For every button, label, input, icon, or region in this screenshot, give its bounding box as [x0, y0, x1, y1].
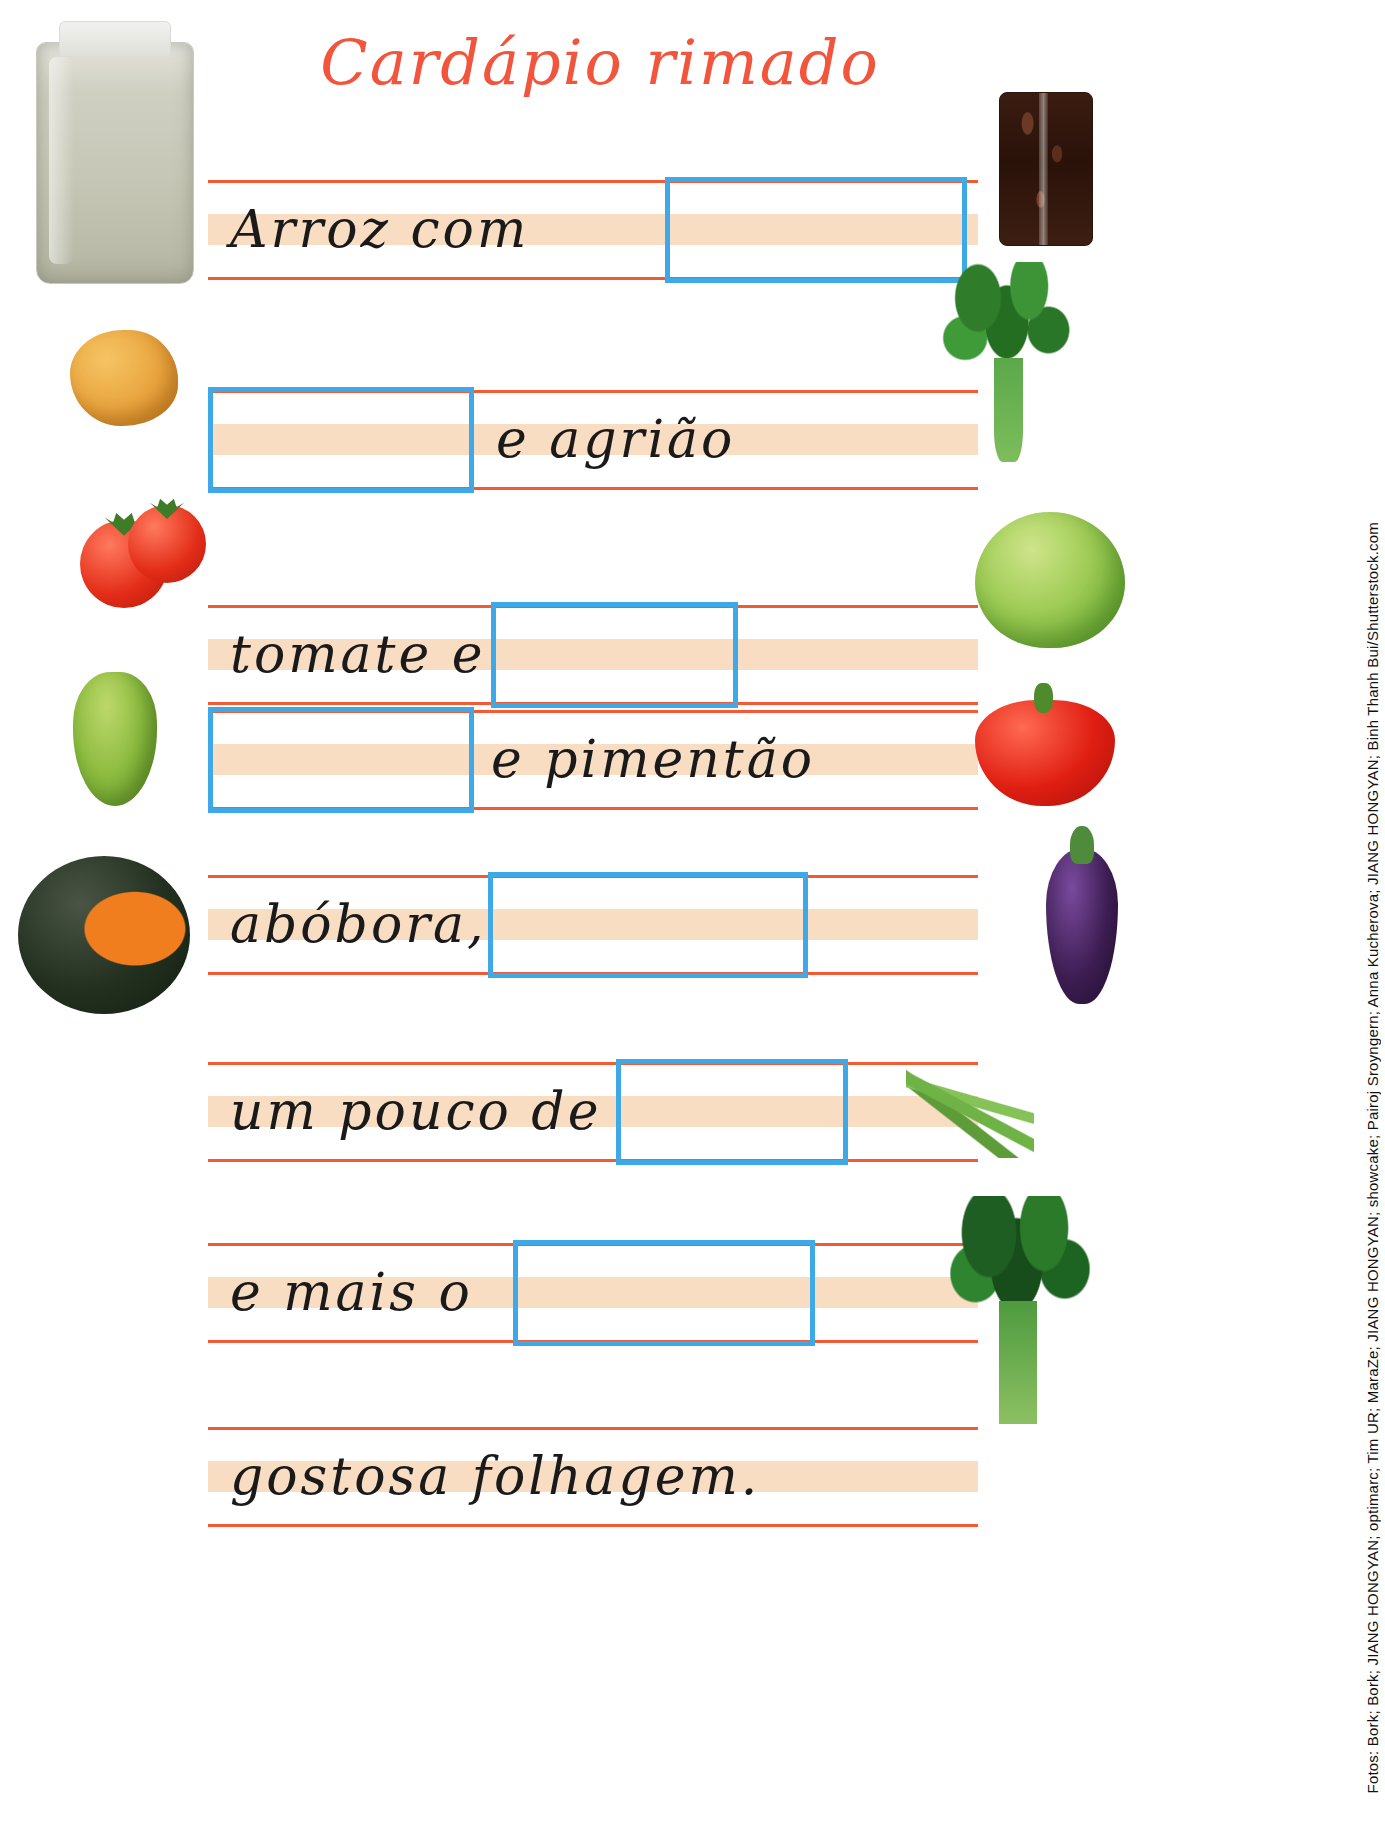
- handwriting-text-3: tomate e: [230, 624, 486, 684]
- eggplant-photo: [1046, 848, 1118, 1004]
- worksheet-line-4: e pimentão: [208, 710, 978, 810]
- handwriting-text-7: e mais o: [230, 1262, 473, 1322]
- answer-box-7[interactable]: [513, 1240, 815, 1346]
- answer-box-3[interactable]: [491, 602, 738, 708]
- photo-credits: Fotos: Bork; Bork; JIANG HONGYAN; optima…: [1364, 522, 1381, 1793]
- spinach-photo: [934, 1196, 1106, 1424]
- bell-pepper-photo: [975, 700, 1115, 806]
- beans-bag-photo: [999, 92, 1093, 246]
- answer-box-2[interactable]: [208, 387, 474, 493]
- handwriting-text-1: Arroz com: [230, 199, 529, 259]
- worksheet-line-1: Arroz com: [208, 180, 978, 280]
- green-beans-photo: [906, 1060, 1034, 1158]
- handwriting-text-4: e pimentão: [491, 729, 815, 789]
- answer-box-1[interactable]: [665, 177, 967, 283]
- lettuce-photo: [975, 512, 1125, 648]
- chayote-photo: [73, 672, 157, 806]
- handwriting-text-5: abóbora,: [230, 894, 487, 954]
- worksheet-line-8: gostosa folhagem.: [208, 1427, 978, 1527]
- pumpkin-photo: [18, 856, 190, 1014]
- worksheet-line-3: tomate e: [208, 605, 978, 705]
- tomato-photo: [128, 505, 206, 583]
- rice-bag-photo: [36, 42, 194, 284]
- worksheet-line-5: abóbora,: [208, 875, 978, 975]
- handwriting-text-8: gostosa folhagem.: [230, 1446, 760, 1506]
- handwriting-text-2: e agrião: [496, 409, 735, 469]
- potato-photo: [70, 330, 178, 426]
- worksheet-line-7: e mais o: [208, 1243, 978, 1343]
- worksheet-line-2: e agrião: [208, 390, 978, 490]
- worksheet-area: Arroz com e agrião tomate e e pimentão a…: [0, 0, 1200, 1823]
- handwriting-text-6: um pouco de: [230, 1081, 601, 1141]
- watercress-photo: [930, 262, 1090, 462]
- answer-box-5[interactable]: [488, 872, 808, 978]
- worksheet-line-6: um pouco de: [208, 1062, 978, 1162]
- answer-box-4[interactable]: [208, 707, 474, 813]
- answer-box-6[interactable]: [616, 1059, 848, 1165]
